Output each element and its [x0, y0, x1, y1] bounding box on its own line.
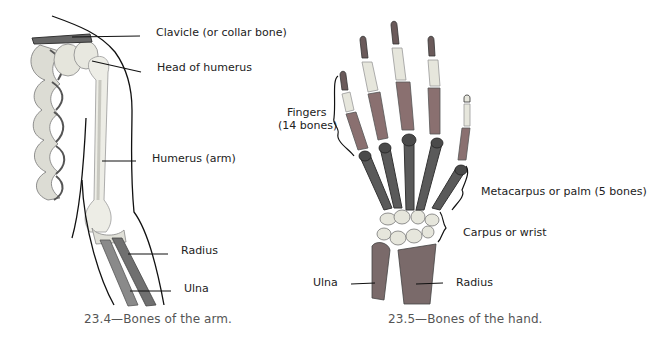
label-fingers: Fingers: [287, 106, 327, 119]
carpus-brace: [438, 212, 446, 242]
label-carpus: Carpus or wrist: [463, 226, 547, 239]
label-hand-ulna: Ulna: [313, 276, 338, 289]
hand-ulna-bone: [372, 243, 390, 300]
clavicle-bone: [32, 34, 92, 44]
label-fingers-count: (14 bones): [278, 119, 337, 132]
hand-illustration: [334, 21, 470, 304]
arm-illustration: [31, 16, 171, 306]
caption-arm: 23.4—Bones of the arm.: [84, 312, 232, 326]
hand-radius-bone: [398, 244, 436, 304]
caption-hand: 23.5—Bones of the hand.: [388, 312, 543, 326]
label-hand-radius: Radius: [456, 276, 493, 289]
metacarpal-bones: [360, 140, 466, 210]
label-metacarpus: Metacarpus or palm (5 bones): [481, 185, 647, 198]
label-arm-radius: Radius: [181, 244, 218, 257]
label-clavicle: Clavicle (or collar bone): [156, 26, 287, 39]
anatomy-illustrations: [0, 0, 667, 340]
carpal-bones: [377, 210, 439, 245]
label-humerus: Humerus (arm): [152, 152, 236, 165]
label-head-of-humerus: Head of humerus: [157, 61, 252, 74]
hand-leader-lines: [351, 283, 443, 284]
label-arm-ulna: Ulna: [184, 282, 209, 295]
